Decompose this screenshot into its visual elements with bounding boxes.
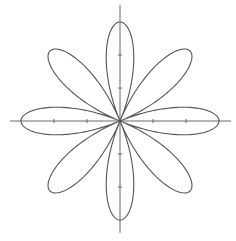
polar-rose-chart bbox=[0, 0, 236, 241]
